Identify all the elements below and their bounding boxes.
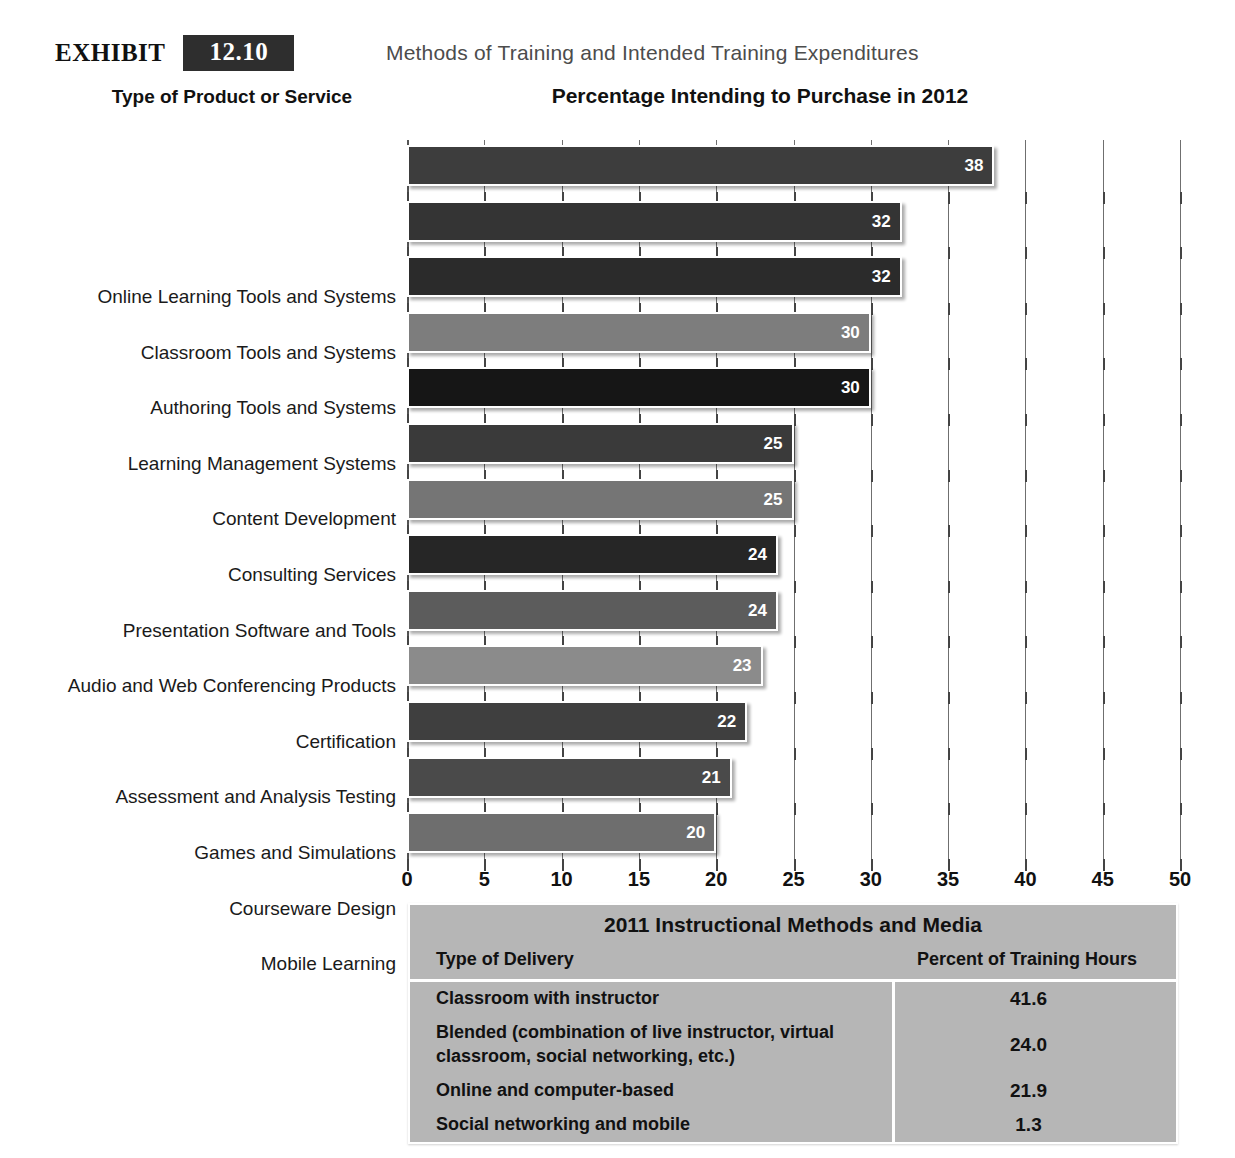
bar: 25 bbox=[407, 479, 794, 520]
x-axis-tick-label: 10 bbox=[550, 868, 572, 891]
bar-row: 38 bbox=[407, 145, 994, 186]
table-column-header-delivery: Type of Delivery bbox=[410, 943, 892, 979]
bar-value-label: 25 bbox=[764, 491, 792, 508]
x-axis-tick-label: 35 bbox=[937, 868, 959, 891]
bar-row: 22 bbox=[407, 701, 747, 742]
bar-value-label: 25 bbox=[764, 435, 792, 452]
bar: 32 bbox=[407, 256, 902, 297]
table-header-row: Type of Delivery Percent of Training Hou… bbox=[410, 943, 1176, 982]
category-label: Mobile Learning bbox=[0, 953, 396, 975]
category-label: Certification bbox=[0, 731, 396, 753]
x-axis-tick-label: 0 bbox=[401, 868, 412, 891]
bar-row: 21 bbox=[407, 757, 732, 798]
x-axis-tick-label: 15 bbox=[628, 868, 650, 891]
table-row: Classroom with instructor41.6 bbox=[410, 982, 1176, 1016]
x-axis-tick-label: 30 bbox=[860, 868, 882, 891]
bar: 23 bbox=[407, 645, 763, 686]
value-column-heading: Percentage Intending to Purchase in 2012 bbox=[410, 84, 1110, 108]
table-cell-delivery: Classroom with instructor bbox=[410, 982, 892, 1016]
bar-row: 30 bbox=[407, 312, 871, 353]
table-body: Classroom with instructor41.6Blended (co… bbox=[410, 982, 1176, 1142]
bar-value-label: 20 bbox=[686, 824, 714, 841]
category-label: Consulting Services bbox=[0, 564, 396, 586]
category-label: Games and Simulations bbox=[0, 842, 396, 864]
table-title: 2011 Instructional Methods and Media bbox=[410, 905, 1176, 943]
category-label: Courseware Design bbox=[0, 898, 396, 920]
bar-row: 32 bbox=[407, 201, 902, 242]
bar: 32 bbox=[407, 201, 902, 242]
category-label: Audio and Web Conferencing Products bbox=[0, 675, 396, 697]
bar-row: 30 bbox=[407, 367, 871, 408]
table-cell-percent: 24.0 bbox=[892, 1016, 1176, 1074]
category-column-heading: Type of Product or Service bbox=[62, 86, 402, 108]
category-label: Assessment and Analysis Testing bbox=[0, 786, 396, 808]
category-label: Content Development bbox=[0, 508, 396, 530]
bar-value-label: 21 bbox=[702, 769, 730, 786]
bar-chart: Online Learning Tools and SystemsClassro… bbox=[0, 130, 1235, 890]
bar: 38 bbox=[407, 145, 994, 186]
bar-row: 23 bbox=[407, 645, 763, 686]
plot-area: 38323230302525242423222120 0510152025303… bbox=[407, 140, 1182, 870]
x-axis-tick-label: 50 bbox=[1169, 868, 1191, 891]
bar-row: 20 bbox=[407, 812, 716, 853]
table-cell-delivery: Blended (combination of live instructor,… bbox=[410, 1016, 892, 1074]
bar-value-label: 24 bbox=[748, 546, 776, 563]
bar-row: 24 bbox=[407, 590, 778, 631]
table-cell-delivery: Social networking and mobile bbox=[410, 1108, 892, 1142]
bar-value-label: 23 bbox=[733, 657, 761, 674]
category-label: Learning Management Systems bbox=[0, 453, 396, 475]
bar: 30 bbox=[407, 312, 871, 353]
bar: 30 bbox=[407, 367, 871, 408]
bar: 21 bbox=[407, 757, 732, 798]
bar-value-label: 22 bbox=[717, 713, 745, 730]
bar: 25 bbox=[407, 423, 794, 464]
bar-row: 24 bbox=[407, 534, 778, 575]
bar-value-label: 32 bbox=[872, 268, 900, 285]
x-axis-tick-label: 40 bbox=[1014, 868, 1036, 891]
category-label: Online Learning Tools and Systems bbox=[0, 286, 396, 308]
bar-value-label: 30 bbox=[841, 379, 869, 396]
bar-row: 32 bbox=[407, 256, 902, 297]
bar: 24 bbox=[407, 590, 778, 631]
bar-row: 25 bbox=[407, 423, 794, 464]
bar: 20 bbox=[407, 812, 716, 853]
table-row: Online and computer-based21.9 bbox=[410, 1074, 1176, 1108]
table-row: Social networking and mobile1.3 bbox=[410, 1108, 1176, 1142]
exhibit-subtitle: Methods of Training and Intended Trainin… bbox=[386, 41, 919, 65]
bar-row: 25 bbox=[407, 479, 794, 520]
x-axis-tick-label: 45 bbox=[1092, 868, 1114, 891]
table-cell-delivery: Online and computer-based bbox=[410, 1074, 892, 1108]
category-label: Presentation Software and Tools bbox=[0, 620, 396, 642]
exhibit-number-badge: 12.10 bbox=[183, 35, 294, 71]
bar: 22 bbox=[407, 701, 747, 742]
bar-value-label: 30 bbox=[841, 324, 869, 341]
bar-value-label: 24 bbox=[748, 602, 776, 619]
x-axis-tick-label: 5 bbox=[479, 868, 490, 891]
table-cell-percent: 1.3 bbox=[892, 1108, 1176, 1142]
category-label: Authoring Tools and Systems bbox=[0, 397, 396, 419]
bar: 24 bbox=[407, 534, 778, 575]
table-cell-percent: 41.6 bbox=[892, 982, 1176, 1016]
x-axis-tick-label: 25 bbox=[782, 868, 804, 891]
bar-value-label: 32 bbox=[872, 213, 900, 230]
table-column-header-percent: Percent of Training Hours bbox=[892, 943, 1176, 979]
instructional-methods-table: 2011 Instructional Methods and Media Typ… bbox=[408, 903, 1178, 1144]
x-axis-tick-label: 20 bbox=[705, 868, 727, 891]
category-label: Classroom Tools and Systems bbox=[0, 342, 396, 364]
table-row: Blended (combination of live instructor,… bbox=[410, 1016, 1176, 1074]
bar-series: 38323230302525242423222120 bbox=[407, 140, 1182, 870]
bar-value-label: 38 bbox=[965, 157, 993, 174]
table-cell-percent: 21.9 bbox=[892, 1074, 1176, 1108]
exhibit-word-label: EXHIBIT bbox=[55, 36, 165, 70]
exhibit-header: EXHIBIT 12.10 bbox=[55, 36, 294, 70]
